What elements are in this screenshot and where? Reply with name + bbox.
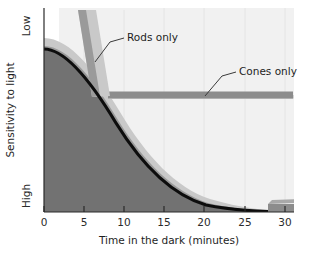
dark-adaptation-chart: Rods only Cones only 0 5 10 15 20 25 30 … xyxy=(0,0,311,254)
x-tick-label-5: 5 xyxy=(81,216,88,228)
curve-end-slab-face xyxy=(268,204,294,212)
x-tick-label-10: 10 xyxy=(117,216,130,228)
x-tick-label-20: 20 xyxy=(197,216,210,228)
cones-only-label: Cones only xyxy=(239,65,297,77)
y-axis-bottom-label: High xyxy=(20,184,32,208)
cone-plateau-band xyxy=(108,92,293,99)
x-tick-label-15: 15 xyxy=(157,216,170,228)
y-axis-title: Sensitivity to light xyxy=(4,62,16,157)
chart-figure: Rods only Cones only 0 5 10 15 20 25 30 … xyxy=(0,0,311,254)
x-axis-title: Time in the dark (minutes) xyxy=(98,234,239,246)
x-tick-label-25: 25 xyxy=(238,216,251,228)
y-axis-top-label: Low xyxy=(20,15,32,36)
x-tick-label-0: 0 xyxy=(41,216,48,228)
x-tick-label-30: 30 xyxy=(278,216,291,228)
rods-only-label: Rods only xyxy=(127,31,178,43)
